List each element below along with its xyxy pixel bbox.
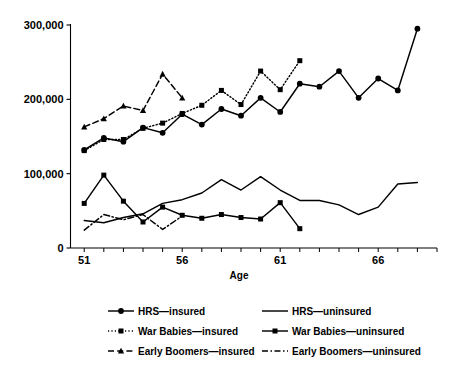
data-point-circle [238,113,244,119]
data-point-square [297,58,302,63]
data-point-circle [258,95,264,101]
data-point-square [141,219,146,224]
y-tick-label: 0 [57,242,63,254]
data-point-square [101,173,106,178]
data-point-square [258,217,263,222]
data-point-square [199,216,204,221]
data-point-square [239,215,244,220]
data-point-circle [199,122,205,128]
x-tick-label: 61 [274,254,286,266]
legend-label: War Babies—insured [138,326,238,337]
data-point-square [219,88,224,93]
line-chart: 0100,000200,000300,000 51566166 Age HRS—… [0,0,454,371]
x-axis-title: Age [230,270,249,281]
data-point-square [82,148,87,153]
data-point-square [219,212,224,217]
legend-label: Early Boomers—insured [138,346,255,357]
legend-label: War Babies—uninsured [292,326,404,337]
data-point-circle [277,109,283,115]
legend-marker-sample [119,329,124,334]
chart-background [0,0,454,371]
data-point-square [239,102,244,107]
x-tick-label: 66 [372,254,384,266]
data-point-square [258,69,263,74]
y-tick-label: 200,000 [24,93,64,105]
x-tick-label: 56 [176,254,188,266]
data-point-square [278,200,283,205]
chart-figure: 0100,000200,000300,000 51566166 Age HRS—… [0,0,454,371]
legend-label: Early Boomers—uninsured [292,346,421,357]
data-point-square [160,205,165,210]
data-point-circle [336,68,342,74]
data-point-circle [356,95,362,101]
data-point-square [82,201,87,206]
data-point-circle [395,88,401,94]
data-point-circle [160,130,166,136]
data-point-circle [415,26,421,32]
data-point-circle [297,81,303,87]
y-tick-label: 300,000 [24,19,64,31]
data-point-square [121,199,126,204]
legend-marker-sample [273,329,278,334]
legend-label: HRS—insured [138,306,205,317]
data-point-square [180,111,185,116]
legend-marker-sample [118,308,124,314]
data-point-square [160,121,165,126]
data-point-square [121,137,126,142]
data-point-square [278,87,283,92]
data-point-square [141,126,146,131]
legend-label: HRS—uninsured [292,306,371,317]
data-point-circle [317,84,323,90]
data-point-square [297,226,302,231]
x-tick-label: 51 [78,254,90,266]
data-point-square [199,103,204,108]
data-point-square [101,137,106,142]
data-point-circle [375,76,381,82]
data-point-circle [219,106,225,112]
y-tick-label: 100,000 [24,168,64,180]
